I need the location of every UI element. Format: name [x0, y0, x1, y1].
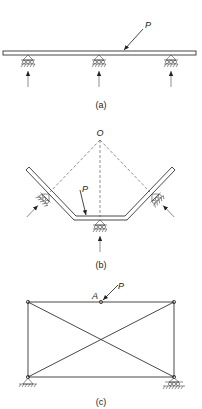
bent-bar	[26, 170, 175, 220]
roller-support-icon	[21, 55, 35, 87]
caption-a: (a)	[96, 100, 107, 110]
figure-a: P (a)	[3, 20, 196, 110]
beam	[3, 51, 196, 55]
roller-support-icon	[147, 189, 179, 222]
dashed-line	[50, 140, 100, 192]
diagram-canvas: P (a) O	[0, 0, 202, 409]
load-label-p: P	[145, 20, 151, 30]
joint-label-a: A	[91, 291, 98, 301]
caption-c: (c)	[96, 397, 107, 407]
figure-c: P A (c)	[19, 281, 185, 407]
point-label-o: O	[96, 128, 103, 138]
load-label-p: P	[82, 184, 88, 194]
roller-support-icon	[92, 55, 106, 87]
pin-support-icon	[19, 378, 37, 387]
roller-support-icon	[163, 378, 185, 389]
caption-b: (b)	[96, 260, 107, 270]
roller-support-icon	[93, 220, 107, 252]
figure-b: O P	[22, 128, 180, 270]
roller-support-icon	[164, 55, 178, 87]
dashed-line	[100, 140, 150, 192]
load-label-p: P	[118, 281, 124, 291]
roller-support-icon	[22, 189, 54, 222]
load-arrow-icon	[124, 29, 143, 50]
load-arrow-icon	[103, 285, 118, 300]
